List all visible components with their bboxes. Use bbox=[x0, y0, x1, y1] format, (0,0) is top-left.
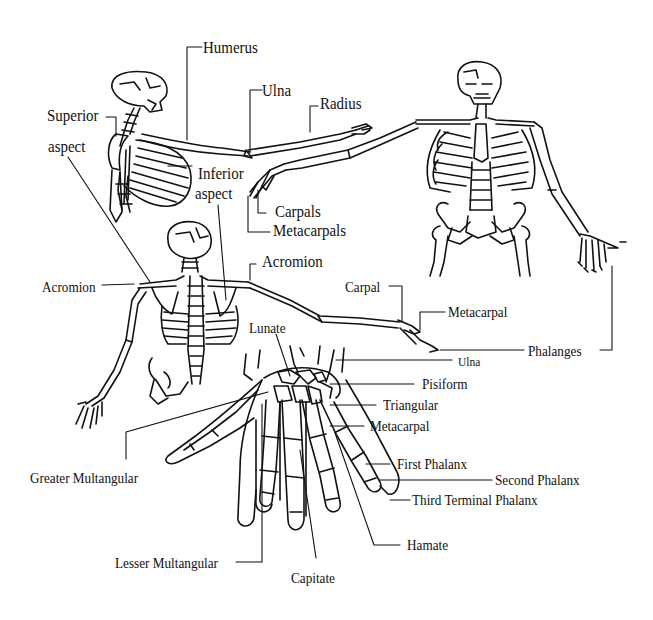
anatomy-diagram: Humerus Ulna Radius Superior aspect Infe… bbox=[0, 0, 653, 620]
label-ulna-top: Ulna bbox=[262, 82, 291, 100]
label-third-terminal-phalanx: Third Terminal Phalanx bbox=[412, 492, 538, 508]
label-superior-aspect: aspect bbox=[48, 138, 85, 156]
label-carpal: Carpal bbox=[345, 279, 380, 295]
label-greater-multangular: Greater Multangular bbox=[30, 470, 138, 486]
label-acromion-left: Acromion bbox=[42, 279, 96, 295]
label-carpals: Carpals bbox=[275, 203, 321, 221]
label-hamate: Hamate bbox=[407, 537, 448, 553]
label-inferior: Inferior bbox=[198, 165, 244, 183]
label-second-phalanx: Second Phalanx bbox=[495, 472, 580, 488]
label-phalanges: Phalanges bbox=[528, 343, 582, 359]
label-first-phalanx: First Phalanx bbox=[397, 456, 467, 472]
label-inferior-aspect: aspect bbox=[195, 185, 232, 203]
label-radius: Radius bbox=[320, 95, 362, 113]
label-humerus: Humerus bbox=[203, 39, 258, 57]
label-acromion-right: Acromion bbox=[262, 253, 323, 271]
label-ulna-hand: Ulna bbox=[458, 354, 480, 370]
label-pisiform: Pisiform bbox=[422, 376, 467, 392]
label-lunate: Lunate bbox=[249, 320, 286, 336]
label-metacarpal-arm: Metacarpal bbox=[448, 304, 507, 320]
diagram-artwork bbox=[0, 0, 653, 620]
front-skeleton-left-arm bbox=[250, 122, 418, 198]
label-triangular: Triangular bbox=[383, 397, 438, 413]
label-metacarpals: Metacarpals bbox=[273, 222, 346, 240]
label-superior: Superior bbox=[47, 107, 99, 125]
label-capitate: Capitate bbox=[291, 570, 335, 586]
label-metacarpal-hand: Metacarpal bbox=[370, 418, 429, 434]
label-lesser-multangular: Lesser Multangular bbox=[115, 555, 218, 571]
front-view-skeleton bbox=[416, 62, 626, 276]
